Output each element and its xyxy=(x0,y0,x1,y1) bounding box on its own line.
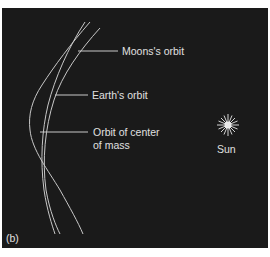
center-of-mass-label-line1: Orbit of center xyxy=(93,126,160,138)
sun-icon xyxy=(217,114,239,136)
earth-orbit-label: Earth's orbit xyxy=(92,89,148,101)
center-of-mass-label-line2: of mass xyxy=(93,139,130,151)
panel-label: (b) xyxy=(6,232,19,244)
moon-orbit-label: Moons's orbit xyxy=(122,45,184,57)
moon-orbit-curve xyxy=(30,22,91,234)
center-of-mass-orbit-curve xyxy=(44,28,100,234)
sun-label: Sun xyxy=(217,143,236,155)
